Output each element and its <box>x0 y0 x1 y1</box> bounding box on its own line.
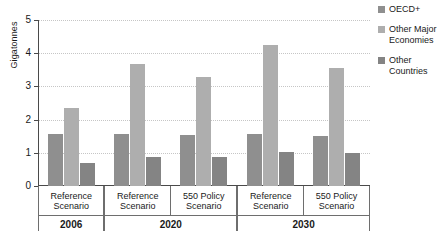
scenario-label-line1: Reference <box>117 191 159 201</box>
bar-group <box>171 20 237 186</box>
bar <box>313 136 328 186</box>
scenario-label-line2: Scenario <box>253 201 289 211</box>
legend-label: Other Major Economies <box>389 24 448 46</box>
plot-area: 012345 <box>38 20 370 186</box>
scenario-label-line2: Scenario <box>319 201 355 211</box>
y-axis-title: Gigatonnes <box>9 5 19 85</box>
scenario-label: ReferenceScenario <box>105 186 170 215</box>
bar <box>212 157 227 186</box>
bar-group <box>38 20 104 186</box>
legend-label: OECD+ <box>389 4 420 15</box>
y-tick-label: 4 <box>25 48 31 58</box>
scenario-label: ReferenceScenario <box>39 186 103 215</box>
bar <box>146 157 161 186</box>
y-tick-label: 5 <box>25 15 31 25</box>
bar-chart: Gigatonnes 012345 ReferenceScenario2006R… <box>0 0 448 231</box>
scenario-label: 550 PolicyScenario <box>303 186 369 215</box>
legend-label: Other Countries <box>389 55 448 77</box>
period-label: 2030 <box>238 215 369 231</box>
y-tick-label: 1 <box>25 148 31 158</box>
bar <box>114 134 129 186</box>
bar <box>263 45 278 186</box>
scenario-label-line1: 550 Policy <box>316 191 358 201</box>
scenario-label-line1: Reference <box>250 191 292 201</box>
scenario-label: ReferenceScenario <box>238 186 303 215</box>
legend-item: OECD+ <box>378 4 448 15</box>
legend-item: Other Major Economies <box>378 24 448 46</box>
legend-swatch-icon <box>378 57 385 64</box>
scenario-cells: ReferenceScenario550 PolicyScenario <box>238 186 369 215</box>
bar <box>279 152 294 186</box>
scenario-cells: ReferenceScenario550 PolicyScenario <box>105 186 236 215</box>
period-label: 2020 <box>105 215 236 231</box>
bar <box>329 68 344 186</box>
scenario-label-line2: Scenario <box>53 201 89 211</box>
scenario-label-line2: Scenario <box>186 201 222 211</box>
bar-group <box>104 20 170 186</box>
scenario-cells: ReferenceScenario <box>39 186 103 215</box>
x-axis-label-table: ReferenceScenario2006ReferenceScenario55… <box>38 186 370 231</box>
bar-group <box>304 20 370 186</box>
bar <box>64 108 79 186</box>
bar <box>130 64 145 186</box>
bar <box>196 77 211 186</box>
period-block: ReferenceScenario2006 <box>38 186 104 231</box>
chart-legend: OECD+Other Major EconomiesOther Countrie… <box>378 4 448 86</box>
scenario-label-line1: 550 Policy <box>183 191 225 201</box>
y-tick-label: 3 <box>25 81 31 91</box>
bar-group <box>237 20 303 186</box>
bar <box>247 134 262 186</box>
y-tick-label: 0 <box>25 181 31 191</box>
legend-item: Other Countries <box>378 55 448 77</box>
y-tick-label: 2 <box>25 115 31 125</box>
bars-layer <box>38 20 370 186</box>
scenario-label-line2: Scenario <box>120 201 156 211</box>
bar <box>345 153 360 186</box>
scenario-label: 550 PolicyScenario <box>170 186 236 215</box>
period-label: 2006 <box>39 215 103 231</box>
legend-swatch-icon <box>378 6 385 13</box>
bar <box>80 163 95 186</box>
period-block: ReferenceScenario550 PolicyScenario2030 <box>237 186 370 231</box>
period-block: ReferenceScenario550 PolicyScenario2020 <box>104 186 237 231</box>
bar <box>180 135 195 186</box>
legend-swatch-icon <box>378 26 385 33</box>
bar <box>48 134 63 186</box>
scenario-label-line1: Reference <box>50 191 92 201</box>
